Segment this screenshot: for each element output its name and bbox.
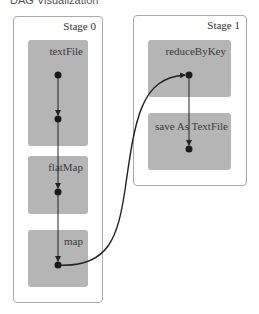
operation-label: flatMap — [48, 161, 83, 173]
operation-reducebykey[interactable]: reduceByKey — [148, 40, 231, 97]
dag-visualization-title: DAG Visualization — [10, 0, 98, 6]
operation-flatmap[interactable]: flatMap — [28, 156, 88, 214]
operation-map[interactable]: map — [28, 230, 88, 287]
operation-textfile[interactable]: textFile — [28, 40, 88, 146]
operation-label: reduceByKey — [166, 45, 226, 57]
operation-label: textFile — [49, 45, 83, 57]
operation-label: save As TextFile — [155, 120, 228, 132]
operation-saveastextfile[interactable]: save As TextFile — [148, 113, 231, 170]
stage-1-label: Stage 1 — [207, 19, 240, 31]
stage-0-label: Stage 0 — [63, 20, 96, 32]
operation-label: map — [64, 235, 83, 247]
